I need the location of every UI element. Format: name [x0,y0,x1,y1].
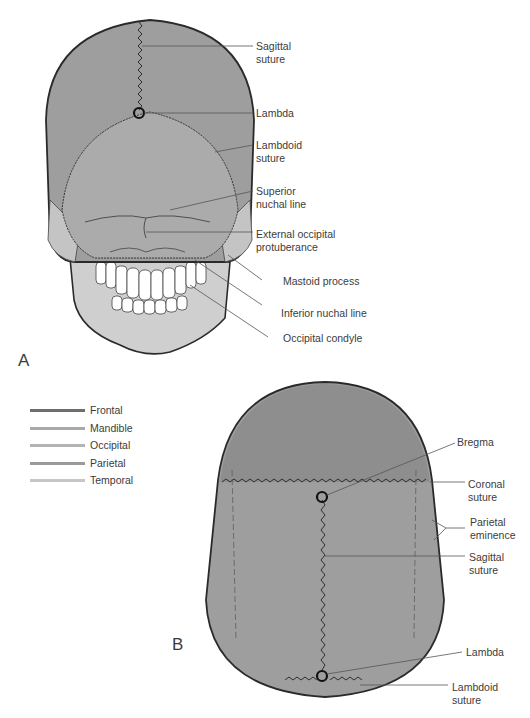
legend-label: Occipital [90,439,130,452]
legend-label: Temporal [90,474,133,487]
label-lambda-b: Lambda [466,646,504,659]
label-superior-nuchal-line: Superior nuchal line [256,185,306,211]
label-mastoid-process: Mastoid process [283,275,359,288]
legend-swatch [30,462,85,465]
label-inferior-nuchal-line: Inferior nuchal line [281,307,367,320]
legend-label: Frontal [90,404,123,417]
label-lambdoid-suture-b: Lambdoid suture [452,681,498,707]
legend-swatch [30,427,85,430]
legend-swatch [30,444,85,447]
label-occipital-condyle: Occipital condyle [283,332,362,345]
label-external-occipital-protuberance: External occipital protuberance [256,228,335,254]
label-bregma: Bregma [457,436,494,449]
label-parietal-eminence: Parietal eminence [470,516,516,542]
label-lambda-a: Lambda [256,107,294,120]
label-coronal-suture: Coronal suture [468,478,505,504]
legend-swatch [30,479,85,482]
label-lambdoid-suture-a: Lambdoid suture [256,139,302,165]
skull-superior-view [206,382,444,697]
label-sagittal-suture-a: Sagittal suture [256,40,291,66]
skull-posterior-view [46,20,254,354]
panel-letter-b: B [172,635,183,655]
legend-label: Parietal [90,457,126,470]
legend-label: Mandible [90,422,133,435]
label-sagittal-suture-b: Sagittal suture [469,551,504,577]
skull-sutures-figure: Sagittal suture Lambda Lambdoid suture S… [0,0,530,718]
panel-letter-a: A [18,351,29,371]
legend-swatch [30,409,85,412]
